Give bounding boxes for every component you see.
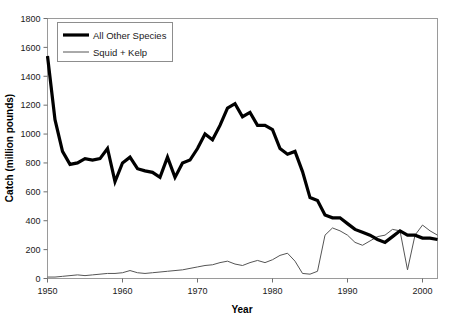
chart-legend: All Other Species Squid + Kelp (58, 23, 173, 62)
x-axis-title: Year (231, 304, 252, 315)
y-axis-title: Catch (million pounds) (4, 94, 15, 202)
legend-label-all-other-species: All Other Species (93, 30, 167, 41)
y-tick-label: 0 (35, 274, 40, 284)
x-tick-label: 1990 (337, 286, 357, 296)
legend-label-squid-kelp: Squid + Kelp (93, 47, 147, 58)
y-tick-label: 1000 (20, 129, 40, 139)
y-tick-label: 600 (25, 187, 40, 197)
y-tick-label: 1400 (20, 72, 40, 82)
x-tick-label: 1960 (112, 286, 132, 296)
y-tick-label: 1600 (20, 43, 40, 53)
x-tick-label: 1950 (37, 286, 57, 296)
x-tick-label: 1970 (187, 286, 207, 296)
x-tick-label: 1980 (262, 286, 282, 296)
x-axis-tick-labels: 195019601970198019902000 (37, 286, 432, 296)
x-axis-ticks (48, 279, 423, 283)
x-tick-label: 2000 (412, 286, 432, 296)
y-axis-tick-labels: 020040060080010001200140016001800 (20, 14, 40, 284)
chart-svg: 020040060080010001200140016001800 195019… (0, 0, 449, 321)
y-tick-label: 1800 (20, 14, 40, 24)
y-tick-label: 400 (25, 216, 40, 226)
y-tick-label: 800 (25, 158, 40, 168)
y-tick-label: 1200 (20, 100, 40, 110)
y-tick-label: 200 (25, 245, 40, 255)
chart-figure: 020040060080010001200140016001800 195019… (0, 0, 449, 321)
